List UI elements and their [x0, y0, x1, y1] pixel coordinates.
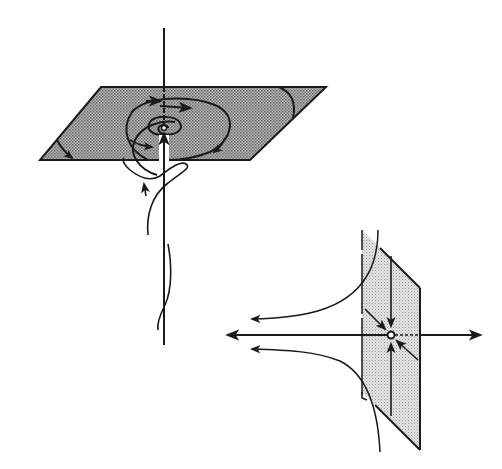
focus-diagram: [40, 28, 326, 345]
trajectory-lower-hyperbola: [252, 349, 380, 452]
phase-portrait-figure: [0, 0, 502, 469]
trajectory-loop: [123, 158, 187, 235]
trajectory-lower-tail: [149, 236, 164, 246]
diagram-canvas: [0, 0, 502, 469]
saddle-equilibrium-point: [388, 332, 395, 339]
saddle-diagram: [228, 230, 480, 452]
trajectory-upper-hyperbola: [252, 230, 378, 319]
focus-equilibrium-point: [162, 126, 167, 131]
trajectory-loop-arrow: [144, 184, 146, 196]
